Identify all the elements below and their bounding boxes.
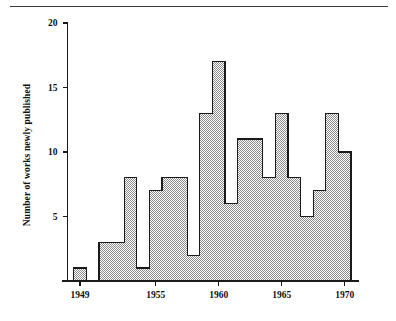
bar-1954 [137, 268, 150, 281]
bar-1970 [338, 152, 351, 281]
bar-1952 [112, 242, 125, 281]
bar-1958 [187, 255, 200, 281]
bar-1964 [263, 178, 276, 281]
bar-1955 [149, 191, 162, 281]
bar-1961 [225, 204, 238, 281]
x-tick-label-1965: 1965 [272, 290, 291, 300]
bar-1960 [212, 62, 225, 281]
y-tick-label-10: 10 [48, 147, 58, 157]
y-tick-label-5: 5 [53, 212, 58, 222]
y-tick-label-20: 20 [48, 18, 58, 28]
plot-area: 510152019491955196019651970 [0, 0, 396, 321]
chart-figure: Number of works newly published 51015201… [0, 0, 396, 321]
bar-1965 [275, 113, 288, 281]
bar-1953 [124, 178, 137, 281]
bar-1962 [238, 139, 251, 281]
bar-1967 [301, 217, 314, 282]
bar-1968 [313, 191, 326, 281]
x-tick-label-1949: 1949 [71, 290, 90, 300]
x-tick-label-1955: 1955 [146, 290, 165, 300]
histogram-svg: 510152019491955196019651970 [0, 0, 396, 321]
bar-1969 [326, 113, 339, 281]
bar-1957 [175, 178, 188, 281]
y-tick-label-15: 15 [48, 83, 58, 93]
x-tick-label-1960: 1960 [209, 290, 228, 300]
bar-1963 [250, 139, 263, 281]
bar-1956 [162, 178, 175, 281]
bar-1949 [74, 268, 87, 281]
bar-1959 [200, 113, 213, 281]
x-tick-label-1970: 1970 [335, 290, 354, 300]
bar-1951 [99, 242, 112, 281]
bar-1966 [288, 178, 301, 281]
bars-group [74, 62, 351, 281]
